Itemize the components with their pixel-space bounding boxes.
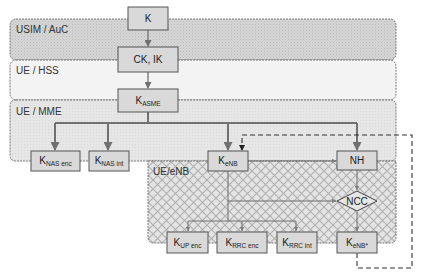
node-k-enb: KeNB	[208, 151, 248, 171]
svg-text:NH: NH	[350, 155, 364, 166]
key-hierarchy-diagram: USIM / AuC UE / HSS UE / MME UE/eNB	[0, 0, 424, 278]
region-label-enb: UE/eNB	[153, 166, 189, 177]
svg-text:K: K	[145, 13, 152, 24]
node-k-enb-star: KeNB*	[337, 232, 377, 253]
region-label-hss: UE / HSS	[16, 65, 59, 76]
region-label-usim: USIM / AuC	[16, 24, 68, 35]
node-ck-ik: CK, IK	[118, 47, 178, 72]
node-nh: NH	[337, 151, 377, 170]
node-k-asme: KASME	[118, 89, 178, 112]
node-k: K	[128, 7, 168, 30]
svg-text:CK, IK: CK, IK	[134, 54, 163, 65]
node-k-nas-int: KNAS int	[89, 151, 129, 171]
node-k-rrc-enc: KRRC enc	[217, 232, 267, 253]
region-ue-hss: UE / HSS	[10, 60, 396, 100]
svg-text:NCC: NCC	[346, 196, 368, 207]
region-label-mme: UE / MME	[16, 106, 62, 117]
node-k-up-enc: KUP enc	[167, 232, 208, 253]
node-k-nas-enc: KNAS enc	[31, 151, 80, 171]
region-usim-auc: USIM / AuC	[10, 19, 396, 60]
node-k-rrc-int: KRRC int	[277, 232, 317, 253]
